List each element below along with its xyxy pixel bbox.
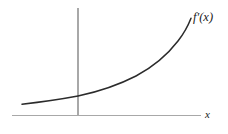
curve-label: f′(x) <box>193 11 213 24</box>
derivative-curve-path <box>22 18 191 104</box>
derivative-graph-figure: f′(x) x <box>0 0 228 134</box>
x-axis-label: x <box>205 109 210 120</box>
